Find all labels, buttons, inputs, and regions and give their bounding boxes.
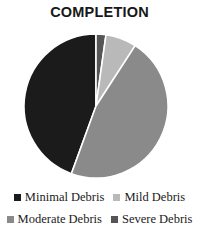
legend-swatch-icon [113,194,120,201]
legend-item-moderate-debris[interactable]: Moderate Debris [7,208,102,230]
legend-swatch-icon [111,216,118,223]
chart-title: COMPLETION [0,4,199,20]
legend-label: Moderate Debris [18,213,102,226]
legend-label: Severe Debris [122,213,192,226]
legend-label: Minimal Debris [25,191,105,204]
legend-label: Mild Debris [124,191,185,204]
legend-row-2: Moderate Debris Severe Debris [0,208,199,230]
pie-chart-figure: COMPLETION Minimal Debris Mild Debris Mo… [0,0,199,235]
pie-svg [0,28,199,186]
legend-swatch-icon [7,216,14,223]
legend-item-mild-debris[interactable]: Mild Debris [113,186,185,208]
legend-row-1: Minimal Debris Mild Debris [0,186,199,208]
legend-item-severe-debris[interactable]: Severe Debris [111,208,192,230]
pie-chart-plot-area [0,28,199,186]
legend-swatch-icon [14,194,21,201]
legend-item-minimal-debris[interactable]: Minimal Debris [14,186,105,208]
pie-slices [24,34,168,178]
chart-legend: Minimal Debris Mild Debris Moderate Debr… [0,186,199,235]
